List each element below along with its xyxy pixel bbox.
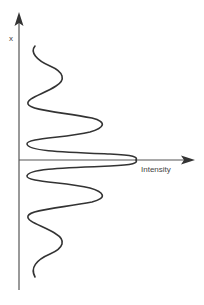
intensity-diagram: x Intensity [0, 0, 204, 305]
intensity-curve [27, 46, 136, 277]
horizontal-axis-label: Intensity [141, 165, 171, 174]
vertical-axis-label: x [9, 34, 13, 43]
